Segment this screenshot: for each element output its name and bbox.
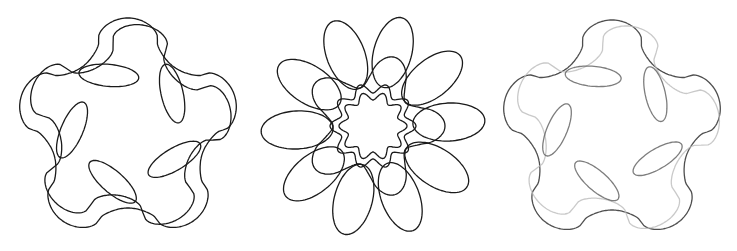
panel-star-with-loops [0,0,250,251]
loops-curve [57,64,201,203]
ring-curve [330,85,416,167]
ring-curve [339,94,407,159]
petals-curve [261,18,485,235]
star-curve [20,18,237,227]
star-with-loops-drawing [0,0,250,251]
rose-petals-drawing [250,0,490,251]
figure-canvas [0,0,737,251]
loops-curve [543,66,682,201]
panel-faded-star [490,0,737,251]
star-curve [31,25,231,225]
panel-rose-petals [250,0,490,251]
faded-star-drawing [490,0,737,251]
